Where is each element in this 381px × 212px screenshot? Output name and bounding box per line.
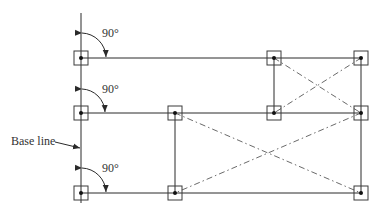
angle-label-2: 90°: [102, 82, 119, 96]
layout-diagram: 90° 90° 90° Base line: [0, 0, 381, 212]
angle-label-1: 90°: [102, 26, 119, 40]
angle-label-3: 90°: [102, 161, 119, 175]
base-line-leader: [55, 142, 80, 148]
base-line-label: Base line: [11, 134, 55, 148]
